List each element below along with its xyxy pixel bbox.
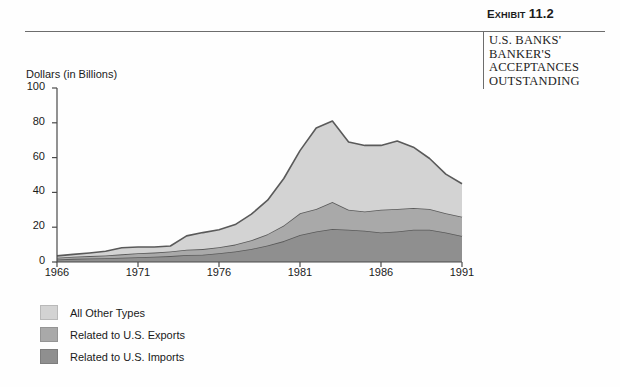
legend-swatch-related-imports: [40, 349, 58, 364]
exhibit-page: EXHIBIT 11.2 U.S. BANKS' BANKER'S ACCEPT…: [0, 0, 620, 387]
legend-label-related-exports: Related to U.S. Exports: [70, 329, 185, 341]
legend-swatch-related-exports: [40, 327, 58, 342]
chart-legend: All Other Types Related to U.S. Exports …: [40, 303, 185, 369]
legend-label-all-other-types: All Other Types: [70, 307, 145, 319]
y-tick-label: 80: [15, 115, 45, 127]
y-tick-label: 40: [15, 184, 45, 196]
y-tick-label: 60: [15, 150, 45, 162]
x-tick-label: 1991: [442, 266, 482, 278]
chart-series-layers: [57, 121, 462, 262]
legend-item: All Other Types: [40, 303, 185, 322]
legend-item: Related to U.S. Exports: [40, 325, 185, 344]
legend-label-related-imports: Related to U.S. Imports: [70, 351, 184, 363]
y-tick-label: 100: [15, 80, 45, 92]
x-tick-label: 1986: [361, 266, 401, 278]
y-tick-label: 0: [15, 254, 45, 266]
legend-item: Related to U.S. Imports: [40, 347, 185, 366]
legend-swatch-all-other-types: [40, 305, 58, 320]
x-tick-label: 1981: [280, 266, 320, 278]
x-tick-label: 1976: [199, 266, 239, 278]
y-tick-label: 20: [15, 219, 45, 231]
x-tick-label: 1971: [118, 266, 158, 278]
x-tick-label: 1966: [37, 266, 77, 278]
